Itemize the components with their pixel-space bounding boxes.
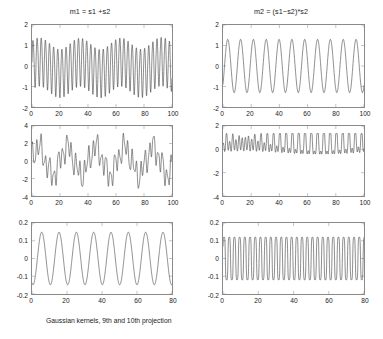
xtick-p10-0: 0 bbox=[212, 297, 232, 304]
xtick-p10src-4: 80 bbox=[326, 199, 346, 206]
waveform-projection-10 bbox=[223, 223, 364, 294]
ytick-p9src-0: 4 bbox=[6, 122, 28, 129]
xtick-p9-2: 40 bbox=[92, 297, 112, 304]
xtick-p9-0: 0 bbox=[21, 297, 41, 304]
ytick-p10src-0: 2 bbox=[197, 122, 219, 129]
panel-projection-9: 0.2 0.1 0 -0.1 -0.2 0 20 40 60 80 bbox=[0, 216, 180, 308]
xtick-p9src-4: 80 bbox=[135, 199, 155, 206]
curve-mixture-2 bbox=[223, 39, 364, 92]
xtick-p9src-5: 100 bbox=[163, 199, 183, 206]
matlab-figure: m1 = s1 +s2 2 1 0 -1 -2 0 20 40 60 80 10… bbox=[0, 0, 383, 339]
panel-projection-9-source: 4 2 0 -2 -4 0 20 40 60 80 100 bbox=[0, 119, 180, 211]
plot-area-projection-10-source bbox=[222, 125, 365, 197]
xtick-mixture-2-0: 0 bbox=[212, 110, 232, 117]
ytick-p9-2: 0 bbox=[2, 255, 28, 262]
panel-mixture-1: m1 = s1 +s2 2 1 0 -1 -2 0 20 40 60 80 10… bbox=[0, 4, 180, 114]
curve-projection-10-source bbox=[223, 134, 364, 155]
xtick-p10-1: 20 bbox=[248, 297, 268, 304]
xtick-p10src-5: 100 bbox=[355, 199, 375, 206]
xtick-p10-2: 40 bbox=[284, 297, 304, 304]
figure-caption: Gaussian kernels, 9th and 10th projectio… bbox=[46, 316, 171, 325]
ytick-mixture-1-2: 0 bbox=[6, 63, 28, 70]
panel-title-mixture-1: m1 = s1 +s2 bbox=[0, 7, 180, 16]
curve-projection-10 bbox=[223, 237, 364, 280]
xtick-mixture-1-3: 60 bbox=[106, 110, 126, 117]
xtick-p10-3: 60 bbox=[319, 297, 339, 304]
xtick-p9-3: 60 bbox=[128, 297, 148, 304]
panel-projection-10: 0.2 0.1 0 -0.1 -0.2 0 20 40 60 80 bbox=[191, 216, 371, 308]
waveform-mixture-2 bbox=[223, 25, 364, 107]
ytick-mixture-2-2: 0 bbox=[197, 63, 219, 70]
ytick-p9-1: 0.1 bbox=[2, 237, 28, 244]
xtick-p9-4: 80 bbox=[163, 297, 183, 304]
xtick-mixture-1-0: 0 bbox=[21, 110, 41, 117]
waveform-projection-9 bbox=[32, 223, 172, 294]
ytick-mixture-1-0: 2 bbox=[6, 21, 28, 28]
waveform-mixture-1 bbox=[32, 25, 172, 107]
xtick-mixture-1-1: 20 bbox=[49, 110, 69, 117]
xtick-p10src-3: 60 bbox=[297, 199, 317, 206]
ytick-p10src-1: 0 bbox=[197, 146, 219, 153]
plot-area-projection-9-source bbox=[31, 125, 173, 197]
xtick-mixture-2-2: 40 bbox=[269, 110, 289, 117]
ytick-p10-0: 0.2 bbox=[193, 219, 219, 226]
xtick-mixture-2-5: 100 bbox=[355, 110, 375, 117]
ytick-mixture-1-1: 1 bbox=[6, 42, 28, 49]
xtick-mixture-1-5: 100 bbox=[163, 110, 183, 117]
panel-mixture-2: m2 = (s1−s2)*s2 2 1 0 -1 -2 0 20 40 60 8… bbox=[191, 4, 371, 114]
ytick-mixture-1-3: -1 bbox=[6, 84, 28, 91]
waveform-projection-9-source bbox=[32, 126, 172, 196]
waveform-projection-10-source bbox=[223, 126, 364, 196]
curve-projection-9 bbox=[32, 232, 172, 285]
panel-title-mixture-2: m2 = (s1−s2)*s2 bbox=[191, 7, 371, 16]
ytick-p10src-2: -2 bbox=[197, 170, 219, 177]
xtick-p9-1: 20 bbox=[56, 297, 76, 304]
xtick-p10src-1: 20 bbox=[240, 199, 260, 206]
ytick-p9src-1: 2 bbox=[6, 140, 28, 147]
xtick-p10src-0: 0 bbox=[212, 199, 232, 206]
ytick-p9src-2: 0 bbox=[6, 158, 28, 165]
xtick-p9src-1: 20 bbox=[49, 199, 69, 206]
ytick-mixture-2-3: -1 bbox=[197, 84, 219, 91]
ytick-p9-0: 0.2 bbox=[2, 219, 28, 226]
xtick-mixture-1-2: 40 bbox=[78, 110, 98, 117]
xtick-mixture-2-3: 60 bbox=[297, 110, 317, 117]
ytick-p10-1: 0.1 bbox=[193, 237, 219, 244]
plot-area-mixture-2 bbox=[222, 24, 365, 108]
ytick-p9-3: -0.1 bbox=[2, 273, 28, 280]
xtick-p9src-0: 0 bbox=[21, 199, 41, 206]
ytick-mixture-2-0: 2 bbox=[197, 21, 219, 28]
curve-mixture-1 bbox=[32, 37, 172, 98]
ytick-p10-2: 0 bbox=[193, 255, 219, 262]
xtick-mixture-2-1: 20 bbox=[240, 110, 260, 117]
plot-area-mixture-1 bbox=[31, 24, 173, 108]
panel-projection-10-source: 2 0 -2 -4 0 20 40 60 80 100 bbox=[191, 119, 371, 211]
ytick-p9src-3: -2 bbox=[6, 176, 28, 183]
plot-area-projection-9 bbox=[31, 222, 173, 295]
xtick-p10-4: 80 bbox=[355, 297, 375, 304]
curve-projection-9-source bbox=[32, 133, 172, 188]
ytick-p10-3: -0.1 bbox=[193, 273, 219, 280]
ytick-mixture-2-1: 1 bbox=[197, 42, 219, 49]
plot-area-projection-10 bbox=[222, 222, 365, 295]
xtick-mixture-1-4: 80 bbox=[135, 110, 155, 117]
xtick-mixture-2-4: 80 bbox=[326, 110, 346, 117]
xtick-p9src-2: 40 bbox=[78, 199, 98, 206]
xtick-p10src-2: 40 bbox=[269, 199, 289, 206]
xtick-p9src-3: 60 bbox=[106, 199, 126, 206]
